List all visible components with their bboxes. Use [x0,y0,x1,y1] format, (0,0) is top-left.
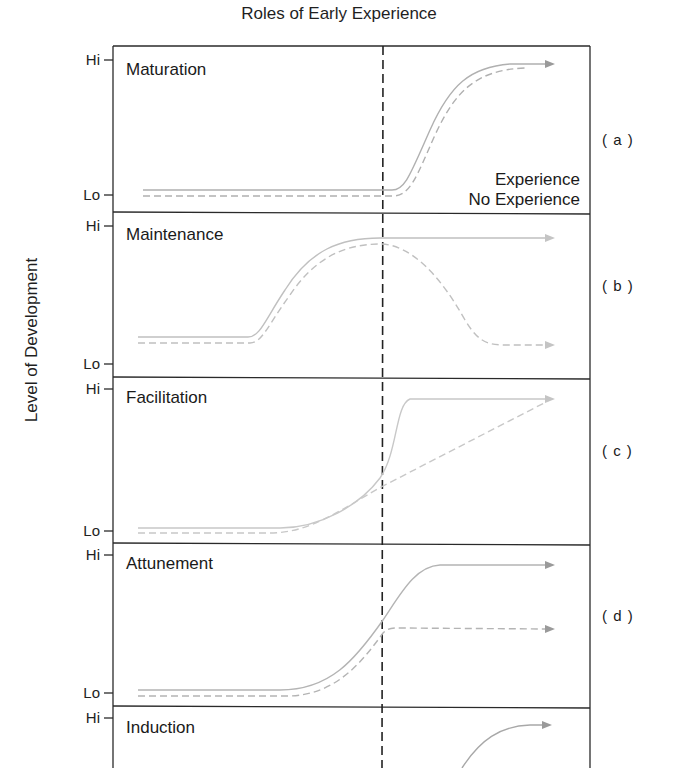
maintenance-experience-curve [138,238,548,337]
tick-lo-a: Lo [60,186,100,203]
attunement-no-experience-curve [138,628,548,696]
panel-tag-b: ( b ) [602,277,634,294]
panel-name-maintenance: Maintenance [126,225,223,245]
tick-hi-c: Hi [60,380,100,397]
experience-onset-divider [382,46,383,768]
panel-name-facilitation: Facilitation [126,388,207,408]
diagram-canvas [0,0,678,768]
facilitation-no-experience-curve [138,401,548,533]
panel-name-attunement: Attunement [126,554,213,574]
tick-hi-e: Hi [60,709,100,726]
panel-tag-c: ( c ) [602,442,633,459]
attunement-experience-curve [138,565,548,690]
panel-name-induction: Induction [126,718,195,738]
tick-lo-c: Lo [60,522,100,539]
legend-experience: Experience [468,170,580,190]
panel-tag-a: ( a ) [602,131,634,148]
maintenance-no-experience-curve [138,244,548,345]
tick-lo-d: Lo [60,684,100,701]
tick-hi-b: Hi [60,217,100,234]
legend-no-experience: No Experience [468,190,580,210]
tick-lo-b: Lo [60,355,100,372]
tick-hi-d: Hi [60,546,100,563]
legend: Experience No Experience [468,170,580,210]
tick-hi-a: Hi [60,51,100,68]
induction-experience-curve [462,725,545,768]
panel-tag-d: ( d ) [602,607,634,624]
panel-name-maturation: Maturation [126,60,206,80]
